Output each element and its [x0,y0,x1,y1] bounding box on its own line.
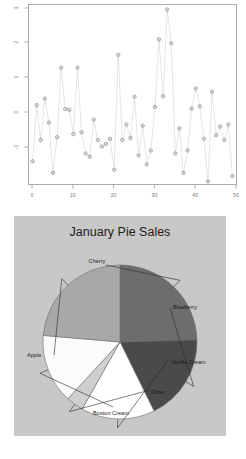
data-point-center [195,88,196,89]
data-point-center [32,161,33,162]
y-tick-label-0: 0 [13,110,19,113]
data-point-center [167,9,168,10]
data-point-center [150,150,151,151]
data-point-center [203,138,204,139]
data-point-center [101,146,102,147]
y-tick-label-3: 3 [13,6,19,9]
x-tick-label-10: 10 [70,192,76,198]
data-point-center [126,124,127,125]
x-tick-label-20: 20 [111,192,117,198]
data-point-center [48,122,49,123]
pie-chart-panel: January Pie Sales Cherry Blueberry Vanil… [14,216,226,436]
data-point-center [85,153,86,154]
pie-slice-apple [43,265,120,342]
data-point-center [211,91,212,92]
data-point-center [114,169,115,170]
y-tick-label-2: 2 [13,40,19,43]
data-point-center [69,109,70,110]
data-point-center [77,67,78,68]
data-point-center [57,137,58,138]
series-line [33,10,233,182]
data-point-center [73,134,74,135]
data-point-center [183,172,184,173]
data-point-center [134,96,135,97]
data-point-center [93,119,94,120]
data-point-center [224,139,225,140]
data-point-center [187,150,188,151]
pie-label-cherry: Cherry [89,258,106,264]
x-tick-label-30: 30 [152,192,158,198]
x-axis-ticks [32,185,236,189]
y-axis-tick-labels: 3 2 1 0 -1 [13,6,19,149]
data-point-center [61,67,62,68]
data-point-center [44,98,45,99]
pie-label-blueberry: Blueberry [173,304,197,310]
data-point-center [216,135,217,136]
y-tick-label-neg1: -1 [13,145,19,150]
data-point-center [207,181,208,182]
data-point-center [179,128,180,129]
data-point-center [138,155,139,156]
data-point-center [40,139,41,140]
pie-slices [43,265,197,419]
series-markers [31,8,234,183]
data-point-center [52,172,53,173]
data-point-center [175,153,176,154]
data-point-center [232,175,233,176]
data-point-center [36,105,37,106]
data-point-center [105,143,106,144]
data-point-center [146,164,147,165]
x-tick-label-0: 0 [31,192,34,198]
data-point-center [89,156,90,157]
pie-chart-title: January Pie Sales [70,225,171,239]
x-axis-tick-labels: 0 10 20 30 40 50 [31,192,239,198]
pie-label-boston-cream: Boston Cream [93,410,129,416]
data-point-center [81,132,82,133]
pie-label-vanilla-cream: Vanilla Cream [171,359,206,365]
data-point-center [158,39,159,40]
scatter-plot-svg: 3 2 1 0 -1 0 10 20 30 40 50 [0,0,246,210]
data-point-center [199,106,200,107]
pie-chart-svg: January Pie Sales Cherry Blueberry Vanil… [14,216,226,436]
data-point-center [220,126,221,127]
y-tick-label-1: 1 [13,75,19,78]
data-point-center [65,108,66,109]
scatter-plot-panel: 3 2 1 0 -1 0 10 20 30 40 50 [0,0,246,210]
data-point-center [191,108,192,109]
pie-label-other: Other [151,389,165,395]
data-point-center [130,138,131,139]
data-point-center [118,54,119,55]
data-point-center [142,125,143,126]
data-point-center [154,107,155,108]
data-point-center [171,43,172,44]
data-point-center [122,139,123,140]
pie-label-apple: Apple [27,352,41,358]
data-point-center [110,138,111,139]
data-point-center [228,124,229,125]
x-tick-label-40: 40 [192,192,198,198]
data-point-center [97,139,98,140]
x-tick-label-50: 50 [233,192,239,198]
data-point-center [163,96,164,97]
y-axis-ticks [25,8,29,147]
